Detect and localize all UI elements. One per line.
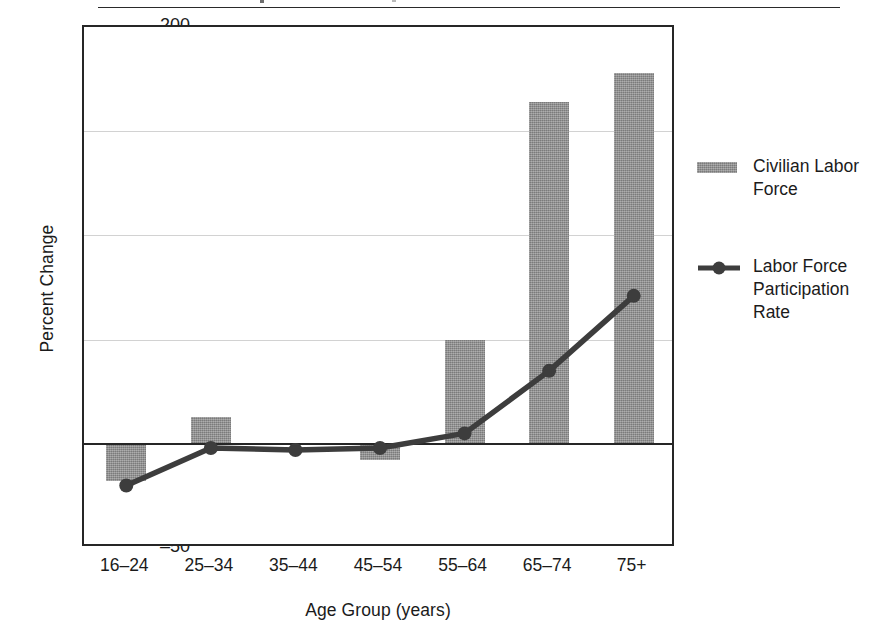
data-point-marker <box>458 426 472 440</box>
data-point-marker <box>288 443 302 457</box>
line-marker-swatch-icon <box>697 259 741 277</box>
legend-entry-civilian-labor-force: Civilian Labor Force <box>697 155 873 201</box>
legend-label: Labor Force Participation Rate <box>753 255 873 324</box>
scan-artifact-mark-1 <box>260 0 264 3</box>
x-axis-tick-label: 16–24 <box>82 556 167 574</box>
x-axis-title: Age Group (years) <box>82 600 674 621</box>
data-point-marker <box>627 289 641 303</box>
plot-area <box>82 25 674 546</box>
data-point-marker <box>119 478 133 492</box>
chart-legend: Civilian Labor Force Labor Force Partici… <box>697 155 873 378</box>
legend-label: Civilian Labor Force <box>753 155 873 201</box>
data-point-marker <box>373 441 387 455</box>
line-series <box>84 27 676 548</box>
x-axis-tick-label: 45–54 <box>336 556 421 574</box>
bar-swatch-icon <box>697 162 737 173</box>
scan-artifact-mark-2 <box>392 0 396 2</box>
line-path <box>126 296 633 486</box>
data-point-marker <box>542 364 556 378</box>
top-rule-divider <box>98 7 840 8</box>
y-axis-title: Percent Change <box>37 139 58 439</box>
x-axis-tick-label: 55–64 <box>420 556 505 574</box>
x-axis-tick-label: 35–44 <box>251 556 336 574</box>
x-axis-tick-label: 75+ <box>589 556 674 574</box>
x-axis-tick-label: 25–34 <box>167 556 252 574</box>
plot-inner <box>84 27 672 544</box>
legend-entry-labor-force-participation-rate: Labor Force Participation Rate <box>697 255 873 324</box>
chart-figure: Percent Change 200 150 100 50 0 –50 16–2… <box>0 0 873 632</box>
x-axis-tick-label: 65–74 <box>505 556 590 574</box>
data-point-marker <box>204 441 218 455</box>
